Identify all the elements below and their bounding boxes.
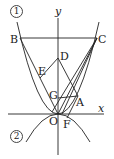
x-axis-label: x bbox=[98, 103, 104, 114]
point-c-label: C bbox=[98, 34, 106, 45]
curve-1-label: 1 bbox=[10, 5, 23, 18]
point-g-label: G bbox=[49, 90, 58, 101]
point-a-label: A bbox=[76, 97, 84, 108]
point-b-label: B bbox=[10, 34, 18, 45]
segment-da bbox=[58, 58, 78, 96]
segment-cg bbox=[52, 38, 97, 112]
point-e-label: E bbox=[38, 66, 46, 77]
curve-2-label: 2 bbox=[10, 130, 23, 143]
point-f-label: F bbox=[63, 119, 71, 130]
y-axis-label: y bbox=[55, 6, 61, 17]
point-o-label: O bbox=[49, 116, 58, 127]
point-d-label: D bbox=[60, 51, 69, 62]
